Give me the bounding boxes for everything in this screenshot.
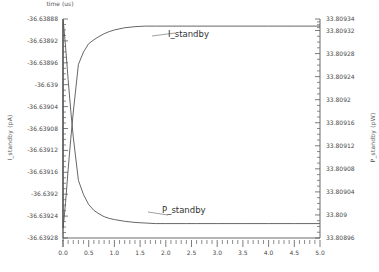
- x-axis-ticks: [63, 240, 320, 247]
- left-tick-label: -36.63892: [0, 37, 58, 44]
- right-axis-ticks: [315, 19, 320, 238]
- right-tick-label: 33.809: [326, 211, 347, 218]
- chart-figure: I_standby (pA) P_standby (pW) time (us) …: [0, 0, 379, 272]
- left-tick-label: -36.63924: [0, 212, 58, 219]
- x-tick-label: 5.0: [305, 249, 335, 256]
- right-tick-label: 33.8092: [326, 96, 351, 103]
- right-tick-label: 33.80924: [326, 73, 355, 80]
- left-tick-label: -36.63912: [0, 146, 58, 153]
- left-tick-label: -36.639: [0, 81, 58, 88]
- series-annotation-i-standby: I_standby: [168, 29, 209, 39]
- left-tick-label: -36.63904: [0, 103, 58, 110]
- right-tick-label: 33.80934: [326, 15, 355, 22]
- left-tick-label: -36.63896: [0, 59, 58, 66]
- right-tick-label: 33.80928: [326, 50, 355, 57]
- left-tick-label: -36.63916: [0, 168, 58, 175]
- left-axis-title: I_standby (pA): [6, 108, 13, 168]
- series-annotation-p-standby: P_standby: [162, 205, 206, 215]
- right-tick-label: 33.80932: [326, 27, 355, 34]
- right-tick-label: 33.80916: [326, 119, 355, 126]
- right-axis-title: P_standby (pW): [369, 106, 376, 170]
- left-tick-label: -36.63908: [0, 125, 58, 132]
- left-tick-label: -36.63888: [0, 15, 58, 22]
- left-tick-label: -36.6392: [0, 190, 58, 197]
- left-tick-label: -36.63928: [0, 234, 58, 241]
- right-tick-label: 33.80896: [326, 234, 355, 241]
- series-line-i-standby: [63, 22, 320, 228]
- right-tick-label: 33.80908: [326, 165, 355, 172]
- right-tick-label: 33.80904: [326, 188, 355, 195]
- right-tick-label: 33.80912: [326, 142, 355, 149]
